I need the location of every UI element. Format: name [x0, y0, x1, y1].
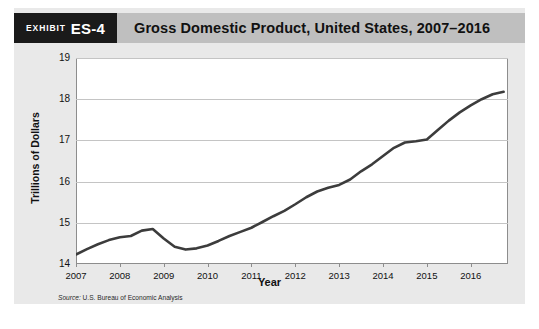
source-text: U.S. Bureau of Economic Analysis [83, 294, 183, 301]
y-axis-tick-label: 16 [46, 177, 70, 187]
exhibit-card: Exhibit ES-4 Gross Domestic Product, Uni… [14, 8, 525, 304]
gdp-line-series [76, 58, 508, 264]
exhibit-label: Exhibit [26, 23, 66, 33]
exhibit-number: ES-4 [71, 20, 105, 37]
y-axis-tick-label: 14 [46, 259, 70, 269]
exhibit-header-bar: Exhibit ES-4 Gross Domestic Product, Uni… [14, 13, 525, 43]
y-axis-tick-label: 17 [46, 135, 70, 145]
y-axis-tick-label: 19 [46, 53, 70, 63]
y-axis-tick-label: 18 [46, 94, 70, 104]
source-prefix: Source: [58, 294, 81, 301]
y-axis-tick-label: 15 [46, 218, 70, 228]
source-note: Source: U.S. Bureau of Economic Analysis [58, 294, 183, 301]
exhibit-badge: Exhibit ES-4 [14, 13, 117, 43]
chart-container: Trillions of Dollars 191817161514 200720… [14, 48, 525, 304]
y-axis-title: Trillions of Dollars [29, 93, 41, 223]
plot-area: 191817161514 200720082009201020112012201… [76, 58, 508, 264]
x-axis-title: Year [14, 276, 525, 288]
exhibit-title: Gross Domestic Product, United States, 2… [134, 20, 490, 36]
